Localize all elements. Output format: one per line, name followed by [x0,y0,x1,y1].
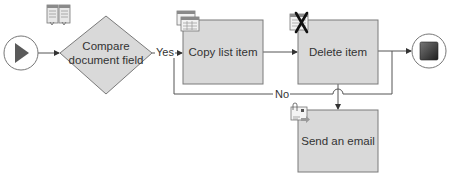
end-node[interactable] [412,34,446,68]
start-node[interactable] [4,36,38,70]
compare-label-line1: Compare [82,39,129,53]
copy-list-item-label: Copy list item [183,20,263,84]
stop-icon [420,42,438,60]
delete-item-label: Delete item [298,20,378,84]
no-edge-label: No [274,88,290,100]
compare-document-icon [47,5,70,25]
send-email-label: Send an email [298,110,378,172]
yes-edge-label: Yes [155,46,175,58]
compare-node-label: Compare document field [64,34,148,72]
compare-label-line2: document field [69,53,144,67]
workflow-canvas: Compare document field Copy list item De… [0,0,450,178]
